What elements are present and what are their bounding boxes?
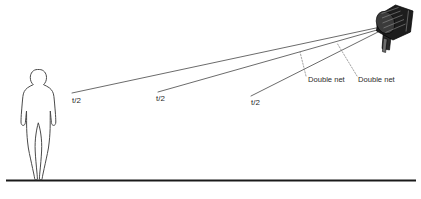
leader-lines xyxy=(300,43,357,76)
double-net-label-2: Double net xyxy=(358,75,396,84)
lighting-diagram-svg: t/2 t/2 t/2 Double net Double net xyxy=(0,0,421,199)
human-figure xyxy=(21,70,56,180)
diagram-canvas: t/2 t/2 t/2 Double net Double net xyxy=(0,0,421,199)
leader-line-net-1 xyxy=(300,52,306,76)
distance-label-2: t/2 xyxy=(156,94,165,103)
beam-lines xyxy=(72,28,378,96)
distance-label-3: t/2 xyxy=(251,98,260,107)
distance-label-1: t/2 xyxy=(72,96,81,105)
fixture-handle xyxy=(382,38,387,53)
double-net-label-1: Double net xyxy=(308,75,346,84)
studio-light-fixture xyxy=(373,5,413,53)
